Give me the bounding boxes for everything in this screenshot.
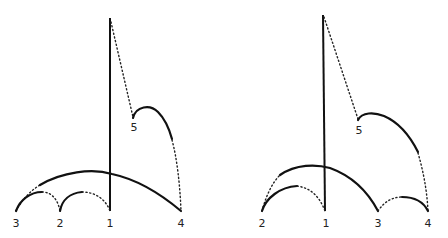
right-root-line bbox=[323, 15, 325, 211]
left-node-label-4: 4 bbox=[178, 217, 185, 230]
right-big-arc-solid bbox=[280, 166, 378, 211]
right-node-label-3: 3 bbox=[375, 217, 382, 230]
right-arc-5-4-solid bbox=[358, 113, 418, 152]
left-node-label-2: 2 bbox=[57, 217, 64, 230]
left-node-label-3: 3 bbox=[13, 217, 20, 230]
right-root-to-5-dotted bbox=[324, 17, 358, 119]
right-arc-2-1-solid bbox=[262, 186, 297, 211]
left-arc-2-1-solid bbox=[60, 192, 82, 211]
right-node-label-2: 2 bbox=[259, 217, 266, 230]
left-arc-3-2-solid bbox=[16, 192, 42, 211]
left-diagram: 3 2 1 4 5 bbox=[13, 18, 185, 230]
left-arc-2-1-dotted bbox=[82, 192, 110, 211]
left-arc-5-4-solid bbox=[133, 107, 172, 139]
right-node-label-5: 5 bbox=[356, 124, 363, 137]
left-big-arc-dotted bbox=[16, 185, 40, 211]
left-arc-5-4-dotted bbox=[172, 140, 181, 211]
left-arc-3-2-dotted bbox=[42, 192, 60, 211]
right-diagram: 2 1 3 4 5 bbox=[259, 15, 432, 230]
left-root-to-5-dotted bbox=[111, 22, 133, 117]
right-node-label-4: 4 bbox=[425, 217, 432, 230]
left-node-label-5: 5 bbox=[131, 121, 138, 134]
right-arc-3-4-solid bbox=[402, 197, 428, 211]
right-arc-2-1-dotted bbox=[297, 186, 325, 211]
left-node-label-1: 1 bbox=[107, 217, 114, 230]
right-arc-3-4-dotted bbox=[378, 197, 402, 211]
right-node-label-1: 1 bbox=[323, 217, 330, 230]
arc-diagram-figure: 3 2 1 4 5 2 1 3 4 5 bbox=[0, 0, 448, 238]
